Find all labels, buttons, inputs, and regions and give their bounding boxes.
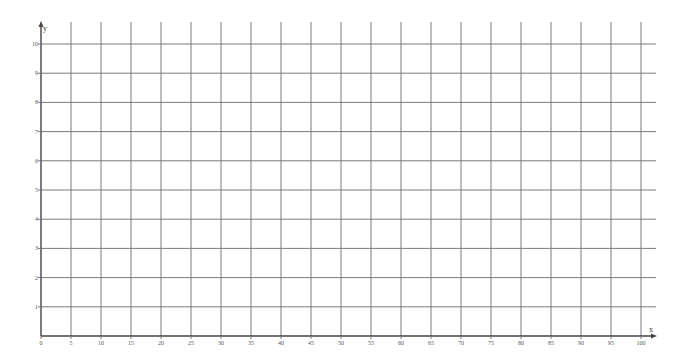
x-tick-label: 100 xyxy=(637,340,646,346)
y-tick-label: 9 xyxy=(35,70,38,76)
x-tick-label: 90 xyxy=(578,340,584,346)
x-tick-label: 25 xyxy=(188,340,194,346)
x-tick-label: 40 xyxy=(278,340,284,346)
x-tick-labels: 0510152025303540455055606570758085909510… xyxy=(40,336,646,346)
x-tick-label: 30 xyxy=(218,340,224,346)
x-tick-label: 5 xyxy=(70,340,73,346)
y-tick-label: 5 xyxy=(35,187,38,193)
y-tick-label: 2 xyxy=(35,275,38,281)
x-tick-label: 95 xyxy=(608,340,614,346)
x-tick-label: 70 xyxy=(458,340,464,346)
x-tick-label: 75 xyxy=(488,340,494,346)
y-tick-label: 1 xyxy=(35,304,38,310)
x-tick-label: 20 xyxy=(158,340,164,346)
y-tick-labels: 12345678910 xyxy=(32,41,41,310)
vertical-gridlines xyxy=(71,22,641,336)
y-tick-label: 3 xyxy=(35,245,38,251)
y-tick-label: 8 xyxy=(35,99,38,105)
y-tick-label: 4 xyxy=(35,216,38,222)
y-tick-label: 6 xyxy=(35,158,38,164)
x-tick-label: 50 xyxy=(338,340,344,346)
y-tick-label: 10 xyxy=(32,41,38,47)
coordinate-grid-chart: x y 051015202530354045505560657075808590… xyxy=(0,0,690,362)
x-tick-label: 35 xyxy=(248,340,254,346)
x-tick-label: 85 xyxy=(548,340,554,346)
x-tick-label: 45 xyxy=(308,340,314,346)
x-tick-label: 55 xyxy=(368,340,374,346)
x-tick-label: 60 xyxy=(398,340,404,346)
horizontal-gridlines xyxy=(41,44,656,307)
y-tick-label: 7 xyxy=(35,129,38,135)
x-tick-label: 65 xyxy=(428,340,434,346)
x-tick-label: 80 xyxy=(518,340,524,346)
x-tick-label: 10 xyxy=(98,340,104,346)
x-axis-label: x xyxy=(649,325,653,334)
x-tick-label: 15 xyxy=(128,340,134,346)
x-axis-arrow-icon xyxy=(651,334,657,339)
x-tick-label: 0 xyxy=(40,340,43,346)
y-axis-label: y xyxy=(43,24,47,33)
